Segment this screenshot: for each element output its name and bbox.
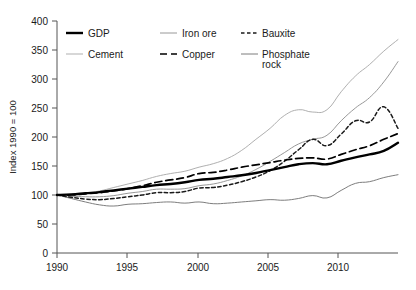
y-tick-label-0: 0 bbox=[42, 248, 48, 259]
x-tick-label-1990: 1990 bbox=[46, 262, 69, 273]
legend-label-phosphate-line2: rock bbox=[262, 59, 282, 70]
legend-label-bauxite: Bauxite bbox=[262, 28, 296, 39]
y-tick-label-200: 200 bbox=[31, 132, 48, 143]
y-tick-label-150: 150 bbox=[31, 161, 48, 172]
y-tick-label-350: 350 bbox=[31, 45, 48, 56]
x-tick-label-2000: 2000 bbox=[187, 262, 210, 273]
x-tick-label-2005: 2005 bbox=[257, 262, 280, 273]
legend-label-cement: Cement bbox=[88, 49, 123, 60]
line-chart: 400 350 300 250 200 150 100 50 0 1990 19… bbox=[0, 0, 416, 290]
y-tick-label-100: 100 bbox=[31, 190, 48, 201]
y-tick-label-300: 300 bbox=[31, 74, 48, 85]
chart-figure: 400 350 300 250 200 150 100 50 0 1990 19… bbox=[0, 0, 416, 290]
y-axis-title: Index 1990 = 100 bbox=[7, 100, 18, 174]
y-tick-label-400: 400 bbox=[31, 16, 48, 27]
legend-label-iron-ore: Iron ore bbox=[182, 28, 217, 39]
legend-label-copper: Copper bbox=[182, 49, 215, 60]
x-tick-label-2010: 2010 bbox=[327, 262, 350, 273]
y-tick-label-50: 50 bbox=[37, 219, 49, 230]
y-tick-label-250: 250 bbox=[31, 103, 48, 114]
x-tick-label-1995: 1995 bbox=[116, 262, 139, 273]
chart-background bbox=[0, 0, 416, 290]
legend-label-gdp: GDP bbox=[88, 28, 110, 39]
